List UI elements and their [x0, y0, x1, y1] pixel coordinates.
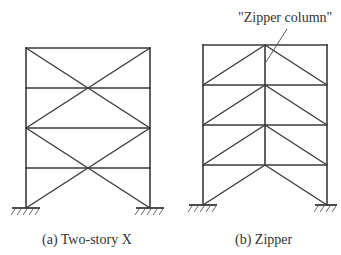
caption-zipper: (b) Zipper [235, 232, 292, 248]
caption-two-story-x: (a) Two-story X [42, 232, 132, 248]
zipper-column-annotation: "Zipper column" [238, 10, 332, 26]
fixed-support-icon [314, 205, 337, 212]
zipper-frame [188, 29, 337, 212]
fixed-support-icon [135, 208, 164, 215]
fixed-support-icon [188, 205, 217, 212]
chevron-brace [203, 165, 327, 205]
two-story-x-frame [11, 48, 164, 215]
fixed-support-icon [11, 208, 40, 215]
braced-frames-diagram [0, 0, 341, 255]
